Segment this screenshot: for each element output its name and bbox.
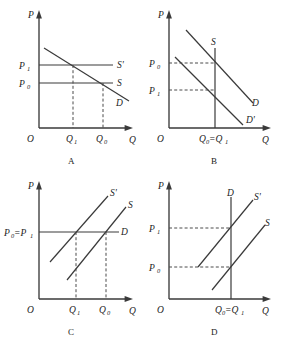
panel-b-tick-p0-base: P: [148, 59, 155, 69]
panel-c-x-axis-arrow: [125, 296, 133, 302]
panel-c-tick-q0-sub: 0: [107, 309, 111, 316]
panel-b: P Q O P 0 P 1 Q 0 =Q 1 S D D' B: [148, 10, 271, 166]
panel-b-tick-p1-base: P: [148, 86, 155, 96]
panel-b-tick-p0-sub: 0: [157, 63, 161, 70]
panel-a-tick-q0: Q 0: [96, 134, 108, 145]
panel-c-tick-q1-sub: 1: [77, 309, 80, 316]
panel-d-label-s: S: [265, 218, 270, 228]
panel-b-x-axis-arrow: [263, 125, 271, 131]
panel-c-tick-p0-eq-p1: P 0 =P 1: [3, 228, 33, 239]
panel-a-label-s-prime: S': [117, 60, 125, 70]
panel-d-tick-p0-sub: 0: [157, 267, 161, 274]
panel-d-tick-q0-base: Q: [215, 305, 222, 315]
panel-d-x-axis-arrow: [263, 296, 271, 302]
panel-a-tick-q1-base: Q: [66, 134, 73, 144]
panel-b-x-axis-label: Q: [262, 135, 269, 145]
panel-a-label-d: D: [115, 98, 123, 108]
panel-d-tick-p0: P 0: [148, 263, 161, 274]
panel-d-tick-q0-eq-q1: Q 0 =Q 1: [215, 305, 244, 316]
panel-a-tick-q0-base: Q: [96, 134, 103, 144]
panel-b-demand-d-line: [186, 30, 253, 103]
panel-c-letter: C: [68, 327, 74, 337]
panel-d-supply-s-line: [212, 225, 265, 290]
panel-a-y-axis-label: P: [27, 10, 34, 20]
panel-a-label-s: S: [117, 78, 122, 88]
panel-b-label-s: S: [211, 37, 216, 47]
panel-d-letter: D: [211, 327, 218, 337]
figure-svg: P Q O P 1 P 0 Q 1 Q 0 S' S D A: [0, 0, 285, 343]
panel-c-tick-q0-base: Q: [99, 305, 106, 315]
panel-b-origin-label: O: [157, 134, 164, 144]
panel-d-origin-label: O: [157, 305, 164, 315]
panel-a-y-axis-arrow: [36, 10, 42, 18]
panel-c-y-axis-label: P: [27, 181, 34, 191]
panel-b-tick-p0: P 0: [148, 59, 161, 70]
panel-d-supply-s-prime-line: [198, 200, 253, 267]
economics-supply-demand-figure: P Q O P 1 P 0 Q 1 Q 0 S' S D A: [0, 0, 285, 343]
panel-b-label-d: D: [251, 98, 259, 108]
panel-b-letter: B: [211, 156, 217, 166]
panel-d-y-axis-arrow: [166, 181, 172, 189]
panel-c-tick-q0: Q 0: [99, 305, 111, 316]
panel-b-tick-eq-q1-base: =Q: [209, 134, 222, 144]
panel-a-tick-q1: Q 1: [66, 134, 77, 145]
panel-d-tick-p1: P 1: [148, 224, 160, 235]
panel-c-label-s: S: [128, 200, 133, 210]
panel-b-y-axis-arrow: [166, 10, 172, 18]
panel-c-label-s-prime: S': [110, 188, 118, 198]
panel-d: P Q O P 1 P 0 Q 0 =Q 1 D S' S D: [148, 181, 271, 337]
panel-b-tick-p1-sub: 1: [157, 90, 160, 97]
panel-c-label-d: D: [120, 227, 128, 237]
panel-a-x-axis-arrow: [125, 125, 133, 131]
panel-a-letter: A: [68, 156, 75, 166]
panel-a-origin-label: O: [27, 134, 34, 144]
panel-b-tick-p1: P 1: [148, 86, 160, 97]
panel-d-tick-p1-sub: 1: [157, 228, 160, 235]
panel-a-tick-q0-sub: 0: [104, 138, 108, 145]
panel-b-tick-q0-eq-q1: Q 0 =Q 1: [199, 134, 228, 145]
panel-b-label-d-prime: D': [245, 115, 256, 125]
panel-a-tick-p0-sub: 0: [27, 83, 31, 90]
panel-c-tick-q1-base: Q: [69, 305, 76, 315]
panel-d-x-axis-label: Q: [262, 306, 269, 316]
panel-d-label-s-prime: S': [254, 192, 262, 202]
panel-d-tick-q1-sub: 1: [241, 309, 244, 316]
panel-c-x-axis-label: Q: [129, 306, 136, 316]
panel-c-y-axis-arrow: [36, 181, 42, 189]
panel-c-tick-p1-sub: 1: [30, 232, 33, 239]
panel-a-tick-p0-base: P: [18, 79, 25, 89]
panel-c-tick-q1: Q 1: [69, 305, 80, 316]
panel-d-tick-p0-base: P: [148, 263, 155, 273]
panel-c-origin-label: O: [27, 305, 34, 315]
panel-a-tick-p0: P 0: [18, 79, 31, 90]
panel-b-demand-d-prime-line: [175, 57, 243, 125]
panel-a-tick-q1-sub: 1: [74, 138, 77, 145]
panel-c-tick-eq-p1-base: =P: [14, 228, 26, 238]
panel-b-y-axis-label: P: [157, 10, 164, 20]
panel-d-tick-eq-q1-base: =Q: [225, 305, 238, 315]
panel-d-label-d: D: [226, 188, 234, 198]
panel-a-tick-p1-base: P: [18, 61, 25, 71]
panel-a-tick-p1-sub: 1: [27, 65, 30, 72]
panel-a-x-axis-label: Q: [129, 135, 136, 145]
panel-a-demand-d-line: [44, 48, 129, 101]
panel-c-tick-p0-base: P: [3, 228, 10, 238]
panel-a-tick-p1: P 1: [18, 61, 30, 72]
panel-b-tick-q0-base: Q: [199, 134, 206, 144]
panel-c-supply-s-prime-line: [50, 196, 108, 262]
panel-d-tick-p1-base: P: [148, 224, 155, 234]
panel-d-y-axis-label: P: [157, 181, 164, 191]
panel-a: P Q O P 1 P 0 Q 1 Q 0 S' S D A: [18, 10, 136, 166]
panel-b-tick-q1-sub: 1: [225, 138, 228, 145]
panel-c: P Q O P 0 =P 1 Q 1 Q 0 S' S D C: [3, 181, 136, 337]
